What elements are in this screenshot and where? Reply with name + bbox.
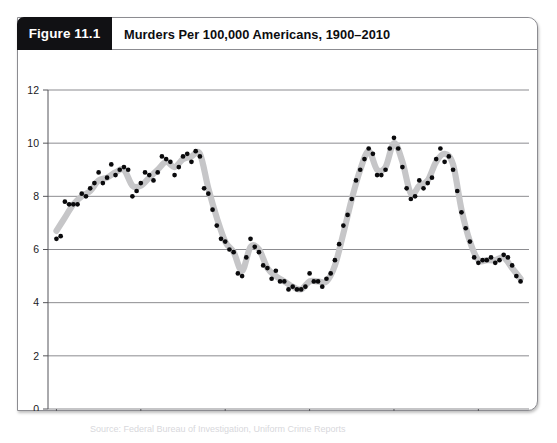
data-point <box>451 167 456 172</box>
data-point <box>311 279 316 284</box>
data-point <box>84 194 89 199</box>
data-point <box>362 157 367 162</box>
data-point <box>143 170 148 175</box>
data-point <box>484 258 489 263</box>
data-point <box>358 167 363 172</box>
data-point <box>510 263 515 268</box>
data-point <box>286 287 291 292</box>
data-point <box>219 237 224 242</box>
data-point <box>489 255 494 260</box>
data-point <box>333 258 338 263</box>
data-point <box>337 242 342 247</box>
data-point <box>54 237 59 242</box>
data-point <box>349 197 354 202</box>
data-point <box>379 173 384 178</box>
figure-number-label: Figure 11.1 <box>29 26 101 41</box>
data-point <box>430 175 435 180</box>
data-point <box>387 146 392 151</box>
data-point <box>96 170 101 175</box>
data-point <box>480 258 485 263</box>
data-point <box>181 154 186 159</box>
data-point <box>307 271 312 276</box>
data-point <box>248 237 253 242</box>
data-point <box>463 226 468 231</box>
data-point <box>172 173 177 178</box>
data-point <box>168 159 173 164</box>
figure-title: Murders Per 100,000 Americans, 1900–2010 <box>124 18 390 50</box>
data-point <box>345 213 350 218</box>
data-point <box>366 146 371 151</box>
data-point <box>227 247 232 252</box>
data-point <box>236 271 241 276</box>
data-point <box>151 178 156 183</box>
y-axis-tick-label: 12 <box>27 84 39 96</box>
data-point <box>514 274 519 279</box>
data-point <box>130 194 135 199</box>
data-point <box>425 181 430 186</box>
data-point <box>409 197 414 202</box>
data-point <box>252 244 257 249</box>
data-point <box>138 181 143 186</box>
data-point <box>371 151 376 156</box>
figure-caption-faint: Source: Federal Bureau of Investigation,… <box>90 424 470 436</box>
data-point <box>244 255 249 260</box>
data-point <box>392 136 397 141</box>
smoothed-trend-line <box>56 143 520 289</box>
data-point <box>506 255 511 260</box>
data-point <box>295 287 300 292</box>
data-point <box>257 250 262 255</box>
gridlines-group <box>48 90 529 409</box>
data-point <box>328 271 333 276</box>
data-point <box>193 149 198 154</box>
data-point <box>375 173 380 178</box>
data-point <box>438 146 443 151</box>
data-point <box>299 287 304 292</box>
data-point <box>198 154 203 159</box>
data-point <box>210 207 215 212</box>
data-point <box>206 191 211 196</box>
data-point <box>501 252 506 257</box>
y-axis-tick-label: 6 <box>33 243 39 255</box>
data-point <box>155 170 160 175</box>
data-point <box>316 279 321 284</box>
murder-rate-scatter-chart: 024681012 190019201940196019802000 <box>18 50 539 411</box>
data-point <box>497 258 502 263</box>
data-point <box>269 276 274 281</box>
data-point <box>303 284 308 289</box>
data-point <box>185 151 190 156</box>
data-point <box>383 167 388 172</box>
data-point <box>273 268 278 273</box>
data-point <box>446 154 451 159</box>
data-point <box>472 255 477 260</box>
data-point <box>278 279 283 284</box>
y-axis-ticks-group: 024681012 <box>27 84 48 411</box>
data-point <box>147 173 152 178</box>
data-point <box>176 165 181 170</box>
data-point <box>71 202 76 207</box>
y-axis-tick-label: 2 <box>33 350 39 362</box>
data-point <box>240 274 245 279</box>
y-axis-tick-label: 0 <box>33 403 39 411</box>
data-point <box>518 279 523 284</box>
data-point <box>404 186 409 191</box>
data-point <box>396 146 401 151</box>
data-point <box>455 189 460 194</box>
data-point <box>476 260 481 265</box>
data-point <box>493 260 498 265</box>
data-point <box>261 263 266 268</box>
data-point <box>126 167 131 172</box>
data-point <box>320 284 325 289</box>
data-point <box>400 165 405 170</box>
data-point <box>58 234 63 239</box>
data-point <box>63 199 68 204</box>
figure-number-badge: Figure 11.1 <box>17 17 112 50</box>
data-point <box>122 165 127 170</box>
data-point <box>101 181 106 186</box>
data-point <box>79 191 84 196</box>
data-point <box>160 154 165 159</box>
data-point <box>214 223 219 228</box>
data-point <box>134 189 139 194</box>
data-point <box>105 175 110 180</box>
data-point <box>417 178 422 183</box>
data-point <box>421 186 426 191</box>
